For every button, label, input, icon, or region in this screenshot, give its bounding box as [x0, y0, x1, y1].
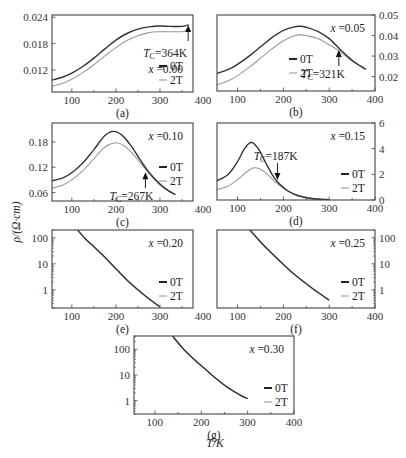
series-0T — [250, 230, 329, 300]
panel-letter: (a) — [116, 107, 129, 120]
x-tick-label: 200 — [275, 93, 292, 105]
composition-label: x =0.30 — [248, 343, 284, 355]
figure-canvas: 1002003004000.0120.0180.024x =0.000T2TTC… — [0, 0, 406, 458]
y-tick-label: 100 — [379, 232, 396, 244]
y-axis-label: ρ/(Ω·cm) — [10, 201, 23, 243]
x-tick-label: 100 — [64, 203, 81, 215]
y-tick-label: 0.05 — [379, 9, 399, 21]
series-2T — [173, 336, 248, 399]
y-tick-label: 0.024 — [23, 11, 48, 23]
x-tick-label: 300 — [321, 93, 338, 105]
y-tick-label: 0.18 — [29, 136, 49, 148]
x-tick-label: 300 — [239, 416, 256, 428]
y-tick-label: 2 — [379, 168, 385, 180]
legend-label-2T: 2T — [352, 290, 365, 302]
panel-b: 1002003004000.020.030.040.05x =0.050T2TT… — [217, 9, 399, 119]
series-2T — [250, 230, 329, 300]
panel-f: 100200300400110100x =0.250T2T(f) — [217, 230, 396, 336]
x-tick-label: 300 — [152, 94, 169, 106]
y-tick-label: 100 — [114, 343, 131, 355]
composition-label: x =0.25 — [329, 237, 365, 249]
y-tick-label: 0.03 — [379, 50, 399, 62]
tc-label: TC=364K — [143, 47, 187, 61]
x-tick-label: 200 — [193, 416, 210, 428]
x-tick-label: 400 — [195, 94, 212, 106]
y-tick-label: 0.012 — [23, 64, 48, 76]
x-tick-label: 100 — [229, 310, 246, 322]
x-tick-label: 200 — [108, 203, 125, 215]
legend-label-2T: 2T — [170, 74, 183, 86]
series-2T — [217, 168, 329, 200]
x-tick-label: 400 — [195, 310, 212, 322]
panel-letter: (e) — [116, 323, 129, 336]
y-tick-label: 10 — [37, 258, 49, 270]
x-tick-label: 100 — [64, 94, 81, 106]
legend-label-0T: 0T — [170, 276, 183, 288]
legend-label-2T: 2T — [275, 396, 288, 408]
series-0T — [173, 336, 248, 399]
x-tick-label: 200 — [108, 310, 125, 322]
x-tick-label: 400 — [367, 310, 384, 322]
panel-g: 100200300400110100x =0.300T2T(g) — [114, 336, 303, 442]
y-tick-label: 0.12 — [29, 161, 48, 173]
composition-label: x =0.15 — [329, 130, 365, 142]
y-tick-label: 1 — [379, 284, 385, 296]
panel-c: 1002003004000.060.120.18x =0.100T2TTC=26… — [29, 123, 212, 229]
legend-label-0T: 0T — [170, 60, 183, 72]
y-tick-label: 0.06 — [29, 187, 49, 199]
x-axis-label: T/K — [206, 437, 225, 449]
x-tick-label: 100 — [229, 93, 246, 105]
x-tick-label: 100 — [229, 202, 246, 214]
panel-letter: (f) — [290, 323, 302, 336]
y-tick-label: 0.04 — [379, 30, 399, 42]
x-tick-label: 100 — [64, 310, 81, 322]
y-tick-label: 100 — [32, 232, 49, 244]
composition-label: x =0.05 — [329, 22, 365, 34]
panel-a: 1002003004000.0120.0180.024x =0.000T2TTC… — [23, 11, 212, 120]
series-2T — [52, 143, 175, 195]
x-tick-label: 300 — [152, 310, 169, 322]
x-tick-label: 200 — [275, 202, 292, 214]
legend-label-2T: 2T — [170, 175, 183, 187]
legend-label-2T: 2T — [352, 182, 365, 194]
panel-letter: (b) — [289, 106, 303, 119]
x-tick-label: 300 — [321, 202, 338, 214]
panel-letter: (d) — [289, 215, 303, 228]
composition-label: x =0.10 — [147, 130, 183, 142]
legend-label-0T: 0T — [275, 382, 288, 394]
tc-arrow-icon — [142, 172, 148, 179]
y-tick-label: 10 — [119, 369, 131, 381]
legend-label-0T: 0T — [170, 161, 183, 173]
y-tick-label: 6 — [379, 117, 385, 129]
y-tick-label: 4 — [379, 143, 385, 155]
legend-label-0T: 0T — [352, 168, 365, 180]
panel-e: 100200300400110100x =0.200T2T(e) — [32, 230, 212, 336]
legend-label-0T: 0T — [352, 276, 365, 288]
y-tick-label: 1 — [125, 395, 131, 407]
x-tick-label: 400 — [195, 203, 212, 215]
x-tick-label: 200 — [108, 94, 125, 106]
composition-label: x =0.20 — [147, 237, 183, 249]
panel-letter: (c) — [116, 216, 129, 229]
legend-label-2T: 2T — [170, 290, 183, 302]
panel-d: 1002003004000246x =0.150T2TTC=187K(d) — [217, 117, 385, 228]
y-tick-label: 1 — [43, 284, 49, 296]
y-tick-label: 0 — [379, 194, 385, 206]
x-tick-label: 400 — [286, 416, 303, 428]
x-tick-label: 300 — [152, 203, 169, 215]
y-tick-label: 0.018 — [23, 38, 48, 50]
y-tick-label: 0.02 — [379, 71, 398, 83]
tc-label: TC=267K — [110, 190, 154, 204]
legend-label-0T: 0T — [300, 53, 313, 65]
panels-group: 1002003004000.0120.0180.024x =0.000T2TTC… — [23, 9, 399, 442]
y-tick-label: 10 — [379, 258, 391, 270]
x-tick-label: 100 — [147, 416, 164, 428]
x-tick-label: 300 — [321, 310, 338, 322]
x-tick-label: 400 — [367, 93, 384, 105]
x-tick-label: 200 — [275, 310, 292, 322]
